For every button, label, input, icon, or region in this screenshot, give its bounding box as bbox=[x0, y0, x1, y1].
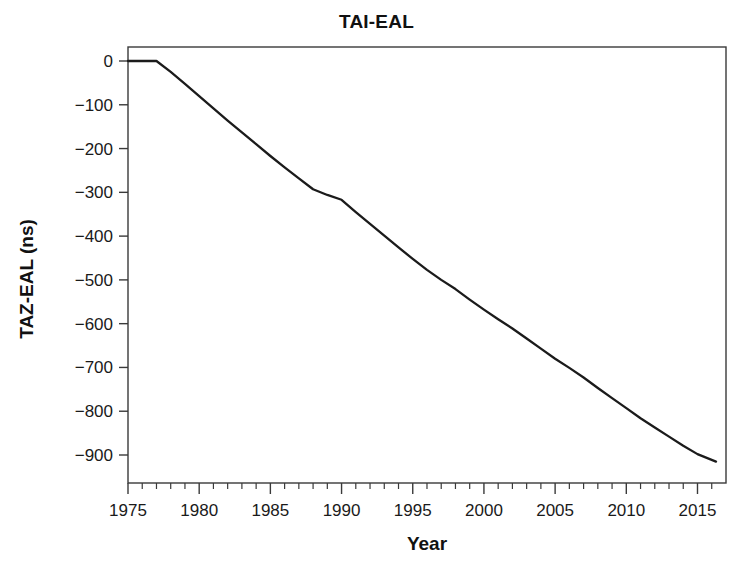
y-tick-label: −100 bbox=[75, 96, 113, 115]
x-tick-label: 2005 bbox=[536, 501, 574, 520]
x-tick-label: 1990 bbox=[323, 501, 361, 520]
x-tick-label: 2010 bbox=[607, 501, 645, 520]
y-tick-label: −600 bbox=[75, 315, 113, 334]
x-tick-label: 1985 bbox=[251, 501, 289, 520]
x-tick-label: 1975 bbox=[109, 501, 147, 520]
y-tick-label: −300 bbox=[75, 183, 113, 202]
x-tick-label: 2000 bbox=[465, 501, 503, 520]
x-tick-label: 2015 bbox=[679, 501, 717, 520]
y-axis-ticks bbox=[119, 61, 128, 455]
data-series-line bbox=[128, 61, 716, 462]
y-tick-label: −500 bbox=[75, 271, 113, 290]
chart-figure: TAI-EAL 0−100−200−300−400−500−600−700−80… bbox=[0, 0, 753, 570]
y-tick-label: −700 bbox=[75, 358, 113, 377]
x-tick-label: 1995 bbox=[394, 501, 432, 520]
y-tick-label: −900 bbox=[75, 446, 113, 465]
x-axis-tick-labels: 197519801985199019952000200520102015 bbox=[109, 501, 716, 520]
y-axis-title: TAZ-EAL (ns) bbox=[16, 219, 37, 339]
x-tick-label: 1980 bbox=[180, 501, 218, 520]
y-tick-label: −400 bbox=[75, 227, 113, 246]
y-tick-label: 0 bbox=[104, 52, 113, 71]
plot-area: 0−100−200−300−400−500−600−700−800−900 19… bbox=[0, 0, 753, 570]
y-tick-label: −200 bbox=[75, 140, 113, 159]
x-axis-title: Year bbox=[407, 533, 448, 554]
y-tick-label: −800 bbox=[75, 402, 113, 421]
y-axis-tick-labels: 0−100−200−300−400−500−600−700−800−900 bbox=[75, 52, 113, 465]
